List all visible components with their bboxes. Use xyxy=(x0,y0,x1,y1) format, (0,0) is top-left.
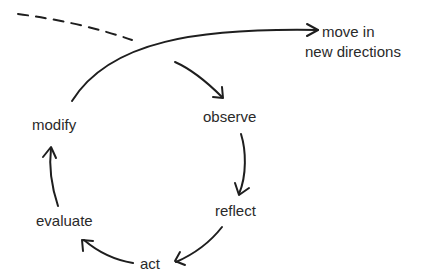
act-arrow-line xyxy=(176,227,222,262)
node-new-directions: new directions xyxy=(305,42,401,62)
node-modify: modify xyxy=(32,115,76,135)
exit-arrow-line xyxy=(72,30,318,101)
incoming-dashed-line xyxy=(18,14,132,40)
node-evaluate: evaluate xyxy=(36,211,93,231)
evaluate-arrow-line xyxy=(84,240,133,263)
node-observe: observe xyxy=(203,107,256,127)
cycle-diagram: move in new directions observe modify re… xyxy=(0,0,428,280)
node-move-in: move in xyxy=(322,22,375,42)
node-act: act xyxy=(140,254,160,274)
modify-arrow-line xyxy=(50,148,58,206)
observe-arrow-line xyxy=(175,62,222,97)
reflect-arrow-line xyxy=(239,134,245,194)
node-reflect: reflect xyxy=(215,201,256,221)
